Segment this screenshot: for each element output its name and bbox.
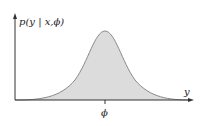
x-axis-arrow-icon (188, 98, 194, 102)
density-plot (0, 0, 203, 126)
density-area (15, 31, 190, 100)
y-axis-arrow-icon (13, 13, 17, 19)
